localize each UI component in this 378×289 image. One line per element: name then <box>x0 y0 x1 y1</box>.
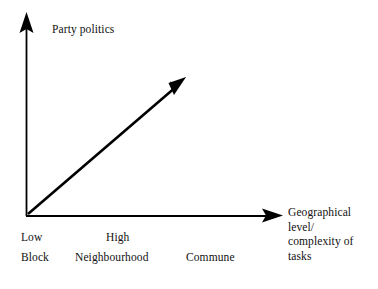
x-axis-category-label-block: Block <box>21 251 49 264</box>
x-axis-category-label-neighbourhood: Neighbourhood <box>75 251 148 264</box>
diagram-canvas: Party politics Geographical level/ compl… <box>0 0 378 289</box>
x-axis-title-line-1: Geographical <box>288 205 374 220</box>
x-axis-title-line-3: complexity of <box>288 234 374 249</box>
x-axis-scale-label-high: High <box>106 231 129 244</box>
trend-arrow-line <box>28 86 177 214</box>
x-axis-title-line-4: tasks <box>288 249 374 264</box>
x-axis-title-line-2: level/ <box>288 220 374 235</box>
x-axis-category-label-commune: Commune <box>186 251 235 264</box>
x-axis-title: Geographical level/ complexity of tasks <box>288 205 374 263</box>
x-axis-scale-label-low: Low <box>21 231 42 244</box>
y-axis-title: Party politics <box>52 23 114 36</box>
